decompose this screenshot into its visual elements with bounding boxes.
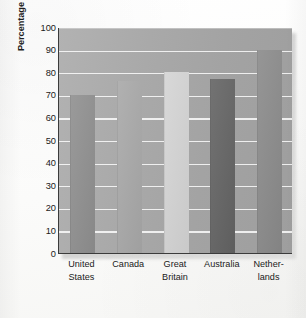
x-tick-label: GreatBritain [152, 258, 199, 283]
gridline [59, 28, 292, 29]
x-tick-label-line: Great [152, 258, 199, 271]
x-tick-label-line: Britain [152, 271, 199, 284]
bar-australia [210, 79, 235, 253]
y-tick-label: 30 [30, 182, 56, 191]
plot-area [58, 28, 292, 254]
y-axis-tick-labels: 0102030405060708090100 [30, 28, 56, 254]
y-tick-label: 80 [30, 69, 56, 78]
y-tick-label: 40 [30, 159, 56, 168]
y-axis-title: Percentage Favoring Voluntary Active Eut… [14, 0, 28, 58]
x-axis-category-labels: UnitedStatesCanadaGreatBritainAustraliaN… [58, 258, 292, 300]
x-tick-label-line: lands [245, 271, 292, 284]
x-tick-label-line: United [58, 258, 105, 271]
y-tick-label: 70 [30, 91, 56, 100]
x-tick-label-line: Nether- [245, 258, 292, 271]
chart-page: Percentage Favoring Voluntary Active Eut… [0, 0, 306, 318]
y-tick-label: 90 [30, 46, 56, 55]
bar-united-states [70, 95, 95, 253]
x-tick-label-line: Australia [198, 258, 245, 271]
bar-canada [117, 81, 142, 253]
x-tick-label-line: States [58, 271, 105, 284]
x-tick-label: Australia [198, 258, 245, 271]
y-tick-label: 50 [30, 137, 56, 146]
x-tick-label: Nether-lands [245, 258, 292, 283]
y-tick-label: 20 [30, 204, 56, 213]
y-tick-label: 60 [30, 114, 56, 123]
x-tick-label: UnitedStates [58, 258, 105, 283]
x-tick-label-line: Canada [105, 258, 152, 271]
y-tick-label: 10 [30, 227, 56, 236]
bar-netherlands [257, 50, 282, 253]
y-tick-label: 0 [30, 250, 56, 259]
bar-great-britain [164, 72, 189, 253]
x-tick-label: Canada [105, 258, 152, 271]
y-tick-label: 100 [30, 24, 56, 33]
